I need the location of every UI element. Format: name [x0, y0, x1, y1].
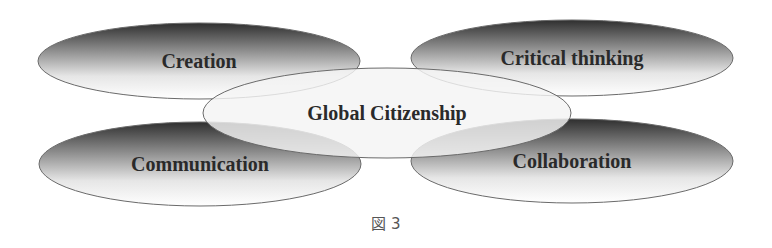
label-critical-thinking: Critical thinking — [501, 47, 644, 70]
venn-diagram: Creation Critical thinking Communication… — [0, 0, 772, 248]
label-global-citizenship: Global Citizenship — [307, 102, 466, 125]
figure-caption: 図 3 — [0, 212, 772, 233]
label-creation: Creation — [161, 50, 236, 72]
label-communication: Communication — [131, 153, 269, 175]
label-collaboration: Collaboration — [513, 150, 632, 172]
